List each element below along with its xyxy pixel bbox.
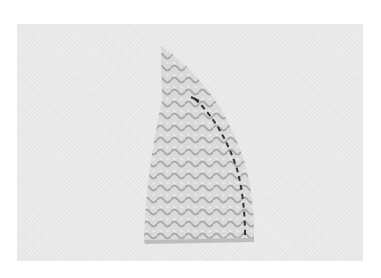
fabric-body [144, 46, 254, 240]
photo-background [17, 24, 363, 261]
fabric-piece [17, 24, 363, 261]
